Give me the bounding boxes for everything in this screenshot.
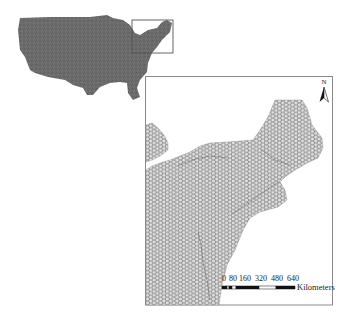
scale-segment: [236, 286, 259, 289]
scale-segment: [232, 286, 236, 289]
scale-tick-480: 480: [271, 274, 283, 283]
scale-segment: [222, 286, 227, 289]
scale-tick-80: 80: [229, 274, 237, 283]
scale-segment: [259, 286, 276, 289]
map-canvas: N 0 80 160 320 480 640: [0, 0, 350, 321]
scale-segment: [276, 286, 295, 289]
scale-unit-label: Kilometers: [297, 282, 335, 292]
scale-segment: [227, 286, 229, 289]
map-figure: N 0 80 160 320 480 640: [0, 0, 350, 321]
inset-map: N 0 80 160 320 480 640: [146, 77, 335, 306]
scale-segment: [229, 286, 232, 289]
scale-bar-segments: [222, 286, 295, 289]
north-label: N: [322, 78, 327, 86]
scale-tick-0: 0: [222, 274, 226, 283]
scale-tick-160: 160: [239, 274, 251, 283]
scale-tick-320: 320: [255, 274, 267, 283]
